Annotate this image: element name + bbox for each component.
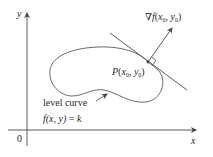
paren-close: ) (178, 11, 181, 22)
constant-k: k (77, 113, 81, 124)
point-label: P(x0, y0) (112, 67, 145, 78)
func-args: (x, y) (46, 113, 67, 124)
level-curve-pointer (96, 94, 107, 101)
equation-label: f(x, y) = k (43, 114, 81, 124)
paren-close: ) (141, 66, 144, 77)
x-axis-label: x (191, 136, 195, 146)
gradient-label: ∇f(x0, y0) (145, 12, 181, 23)
point-p (147, 61, 150, 64)
nabla-symbol: ∇ (145, 11, 152, 22)
diagram-canvas (0, 0, 213, 157)
equals-sign: = (66, 113, 77, 124)
level-curve (50, 47, 163, 102)
origin-label: 0 (17, 134, 22, 144)
y-axis-label: y (17, 9, 21, 19)
level-curve-label: level curve (43, 98, 87, 108)
